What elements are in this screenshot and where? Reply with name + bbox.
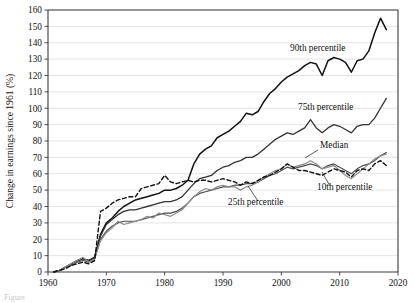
series-line-25th-percentile — [54, 154, 387, 272]
earnings-percentile-line-chart: 0102030405060708090100110120130140150160… — [0, 0, 414, 303]
annotation-25th-percentile: 25th percentile — [228, 197, 284, 207]
y-tick-label: 50 — [33, 185, 43, 195]
x-tick-label: 1990 — [214, 278, 233, 288]
x-tick-label: 1980 — [155, 278, 174, 288]
y-tick-label: 140 — [28, 38, 42, 48]
series-annotations: 90th percentile75th percentileMedian10th… — [228, 43, 373, 207]
y-tick-label: 100 — [28, 104, 42, 114]
figure-container: 0102030405060708090100110120130140150160… — [0, 0, 414, 303]
y-tick-label: 110 — [28, 87, 42, 97]
y-tick-label: 30 — [33, 218, 43, 228]
y-tick-label: 20 — [33, 235, 43, 245]
x-tick-label: 1960 — [39, 278, 58, 288]
y-tick-label: 160 — [28, 5, 42, 15]
y-axis-title: Change in earnings since 1961 (%) — [4, 74, 16, 209]
y-tick-label: 130 — [28, 54, 42, 64]
series-line-median — [54, 152, 387, 272]
x-tick-label: 2020 — [389, 278, 408, 288]
figure-caption: Figure — [4, 293, 25, 302]
y-tick-label: 0 — [37, 267, 42, 277]
x-axis-ticks: 1960197019801990200020102020 — [39, 272, 408, 288]
y-axis-ticks: 0102030405060708090100110120130140150160 — [28, 5, 48, 277]
y-tick-label: 90 — [33, 120, 43, 130]
y-tick-label: 70 — [33, 153, 43, 163]
annotation-75th-percentile: 75th percentile — [298, 102, 354, 112]
gridlines — [48, 10, 398, 256]
annotation-90th-percentile: 90th percentile — [290, 43, 346, 53]
y-tick-label: 150 — [28, 22, 42, 32]
y-tick-label: 80 — [33, 136, 43, 146]
x-tick-label: 2010 — [330, 278, 349, 288]
y-tick-label: 120 — [28, 71, 42, 81]
x-tick-label: 2000 — [272, 278, 291, 288]
x-tick-label: 1970 — [97, 278, 116, 288]
y-tick-label: 10 — [33, 251, 43, 261]
y-tick-label: 40 — [33, 202, 43, 212]
y-tick-label: 60 — [33, 169, 43, 179]
annotation-10th-percentile: 10th percentile — [317, 182, 373, 192]
annotation-median: Median — [320, 140, 349, 150]
